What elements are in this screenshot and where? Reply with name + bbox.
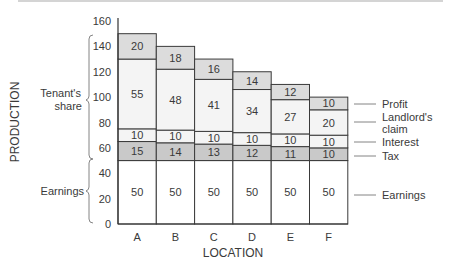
bar-value-label: 10 xyxy=(323,136,335,148)
x-tick-label: D xyxy=(248,231,256,243)
bar-value-label: 13 xyxy=(208,146,220,158)
bar-value-label: 10 xyxy=(169,130,181,142)
tenant-share-label: Tenant's share xyxy=(40,87,84,112)
y-tick-label: 80 xyxy=(99,117,111,129)
legend-landlords-claim: Landlord's claim xyxy=(382,111,435,135)
bar-value-label: 50 xyxy=(323,186,335,198)
bar-value-label: 10 xyxy=(323,148,335,160)
bar-value-label: 10 xyxy=(131,129,143,141)
y-tick-label: 140 xyxy=(93,40,111,52)
y-tick-label: 0 xyxy=(105,218,111,230)
legend: Profit Landlord's claim Interest Tax Ear… xyxy=(354,98,435,201)
bar-segment: 50 xyxy=(310,161,348,224)
bar-segment: 10 xyxy=(156,130,194,143)
bar-value-label: 27 xyxy=(284,111,296,123)
bar-segment: 27 xyxy=(271,100,309,134)
bar-segment: 10 xyxy=(271,134,309,147)
bar-value-label: 20 xyxy=(323,117,335,129)
bar-value-label: 10 xyxy=(284,134,296,146)
bar-value-label: 50 xyxy=(131,186,143,198)
y-tick-label: 40 xyxy=(99,167,111,179)
bar-segment: 50 xyxy=(118,161,156,224)
bar-value-label: 14 xyxy=(169,146,181,158)
bar-segment: 16 xyxy=(195,59,233,79)
x-tick-label: C xyxy=(210,231,218,243)
bar-value-label: 55 xyxy=(131,88,143,100)
bar-segment: 50 xyxy=(271,161,309,224)
bar-segment: 10 xyxy=(233,133,271,146)
bar-value-label: 15 xyxy=(131,145,143,157)
x-tick-label: E xyxy=(287,231,294,243)
bar-value-label: 50 xyxy=(169,186,181,198)
bar-value-label: 50 xyxy=(208,186,220,198)
bar-segment: 48 xyxy=(156,69,194,130)
stacked-bar-chart: 020406080100120140160 501510552050141048… xyxy=(0,0,455,273)
earnings-left-label: Earnings xyxy=(41,185,85,197)
x-axis-title: LOCATION xyxy=(203,246,263,260)
bar-value-label: 14 xyxy=(246,75,258,87)
bar-segment: 12 xyxy=(271,84,309,99)
bar-segment: 20 xyxy=(118,34,156,59)
x-tick-label: A xyxy=(133,231,141,243)
bars: 5015105520501410481850131041165012103414… xyxy=(118,34,348,224)
y-tick-label: 60 xyxy=(99,142,111,154)
bar-value-label: 10 xyxy=(246,133,258,145)
bar-segment: 50 xyxy=(195,161,233,224)
y-tick-label: 100 xyxy=(93,91,111,103)
earnings-brace xyxy=(86,159,93,223)
legend-tax: Tax xyxy=(382,150,400,162)
bar-segment: 11 xyxy=(271,147,309,161)
bar-value-label: 34 xyxy=(246,105,258,117)
bar-value-label: 50 xyxy=(284,186,296,198)
bar-segment: 34 xyxy=(233,90,271,133)
bar-segment: 10 xyxy=(310,148,348,161)
bar-value-label: 10 xyxy=(208,132,220,144)
bar-value-label: 48 xyxy=(169,94,181,106)
y-tick-label: 20 xyxy=(99,193,111,205)
y-tick-label: 120 xyxy=(93,66,111,78)
bar-segment: 55 xyxy=(118,59,156,129)
bar-segment: 10 xyxy=(195,131,233,144)
legend-profit: Profit xyxy=(382,98,408,110)
bar-value-label: 12 xyxy=(284,86,296,98)
bar-value-label: 18 xyxy=(169,52,181,64)
bar-value-label: 16 xyxy=(208,63,220,75)
bar-value-label: 10 xyxy=(323,97,335,109)
legend-interest: Interest xyxy=(382,136,419,148)
legend-earnings: Earnings xyxy=(382,189,426,201)
y-axis-ticks: 020406080100120140160 xyxy=(93,15,111,230)
bar-segment: 10 xyxy=(310,135,348,148)
bar-segment: 10 xyxy=(310,97,348,110)
x-tick-label: B xyxy=(172,231,179,243)
bar-segment: 14 xyxy=(156,143,194,161)
x-axis-labels: ABCDEF xyxy=(133,231,332,243)
bar-segment: 12 xyxy=(233,145,271,160)
y-tick-label: 160 xyxy=(93,15,111,27)
bar-value-label: 20 xyxy=(131,40,143,52)
y-axis-title: PRODUCTION xyxy=(8,82,22,163)
bar-segment: 10 xyxy=(118,129,156,142)
bar-segment: 13 xyxy=(195,144,233,160)
bar-value-label: 41 xyxy=(208,99,220,111)
bar-segment: 50 xyxy=(233,161,271,224)
bar-segment: 41 xyxy=(195,79,233,131)
bar-segment: 50 xyxy=(156,161,194,224)
bar-value-label: 50 xyxy=(246,186,258,198)
x-tick-label: F xyxy=(325,231,332,243)
bar-value-label: 12 xyxy=(246,147,258,159)
bar-segment: 18 xyxy=(156,46,194,69)
bar-segment: 14 xyxy=(233,72,271,90)
bar-segment: 15 xyxy=(118,142,156,161)
bar-value-label: 11 xyxy=(285,148,296,160)
bar-segment: 20 xyxy=(310,110,348,135)
